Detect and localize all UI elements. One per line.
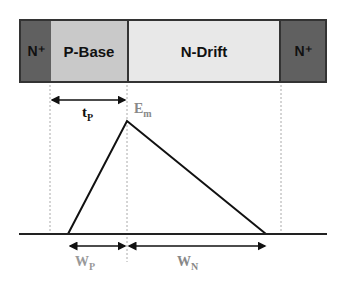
wp-label: WP	[75, 254, 95, 272]
field-diagram	[0, 0, 347, 283]
wn-label: WN	[177, 254, 198, 272]
field-profile	[68, 121, 266, 234]
em-label: Em	[134, 101, 152, 119]
tp-label: tP	[82, 104, 93, 123]
